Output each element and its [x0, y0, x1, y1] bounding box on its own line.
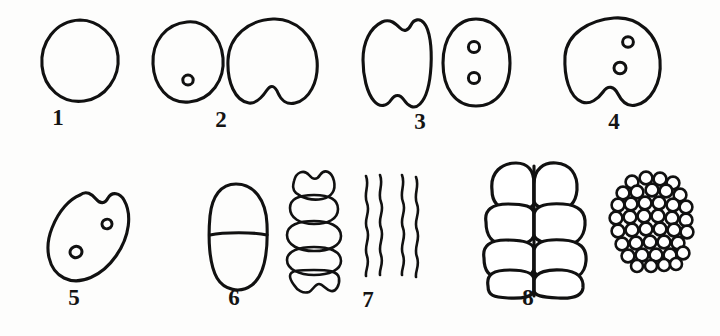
figure-5-group: 5 — [36, 186, 166, 316]
figure-8-label: 8 — [508, 286, 548, 309]
figure-5-nucleus-upper — [101, 218, 114, 231]
figure-6-septum — [210, 233, 267, 235]
figure-3-group: 3 — [352, 14, 522, 136]
print-speck — [102, 308, 105, 311]
figure-4-group: 4 — [552, 12, 692, 136]
figure-7-five-segment-chain — [287, 171, 341, 292]
figure-2-drawing-group — [145, 14, 325, 112]
figure-4-label: 4 — [594, 110, 634, 133]
figure-8-morula-cluster — [610, 172, 694, 272]
figure-1-drawing-plain-round-cell — [22, 14, 142, 110]
figure-2-cell-with-notch — [228, 19, 317, 103]
filament-2 — [380, 175, 382, 275]
figure-6-label: 6 — [214, 286, 254, 309]
figure-8-eight-cell-block — [484, 163, 586, 298]
figure-7-label: 7 — [348, 288, 388, 311]
figure-3-constricted-cell — [363, 20, 431, 107]
figure-2-label: 2 — [201, 108, 241, 131]
filament-4 — [416, 177, 418, 277]
figure-7-drawing-group — [272, 166, 422, 294]
figure-3-nucleus-lower — [468, 73, 479, 84]
figure-4-nucleus-upper — [623, 37, 634, 47]
figure-2-group: 2 — [145, 14, 325, 134]
figure-3-nucleus-upper — [468, 42, 479, 53]
figure-3-oval-cell-two-nuclei — [443, 19, 510, 106]
figure-5-nucleus-lower — [68, 245, 83, 260]
filament-1 — [366, 176, 368, 276]
filament-3 — [402, 175, 404, 275]
figure-8-group: 8 — [462, 160, 702, 316]
figure-plate: 1 2 3 — [0, 0, 720, 336]
figure-1-label: 1 — [38, 106, 78, 129]
figure-3-drawing-group — [352, 14, 522, 114]
figure-1-group: 1 — [22, 14, 142, 134]
figure-5-drawing-tilted-oval — [36, 186, 166, 292]
figure-5-label: 5 — [54, 286, 94, 309]
figure-2-nucleus — [183, 75, 193, 85]
figure-4-drawing-two-nuclei-notch — [552, 12, 692, 114]
figure-4-nucleus-lower — [614, 62, 626, 74]
figure-2-cell-one-nucleus — [153, 22, 223, 102]
figure-8-drawing-group — [462, 160, 702, 300]
figure-7-group: 7 — [272, 166, 422, 316]
figure-7-wavy-filaments — [366, 175, 418, 277]
figure-3-label: 3 — [400, 110, 440, 133]
